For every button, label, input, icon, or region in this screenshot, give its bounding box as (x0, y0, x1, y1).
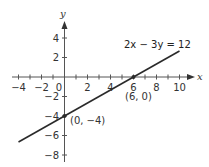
y-tick-label: −8 (44, 150, 59, 161)
x-axis: x −4 −2 0 2 4 6 8 10 (11, 71, 203, 93)
x-intercept-point (132, 75, 136, 79)
y-axis-arrow-icon (62, 21, 68, 29)
x-tick-label: 10 (173, 82, 186, 93)
y-axis-label: y (59, 8, 66, 19)
coordinate-plane: x −4 −2 0 2 4 6 8 10 y 4 2 −2 −4 −6 −8 2… (0, 0, 209, 167)
y-tick-label: −6 (44, 130, 59, 141)
x-tick-label: 2 (84, 82, 90, 93)
equation-label: 2x − 3y = 12 (124, 39, 191, 50)
x-axis-label: x (197, 71, 203, 82)
y-tick-label: 2 (53, 52, 59, 63)
x-axis-arrow-icon (187, 74, 195, 80)
y-intercept-label: (0, −4) (70, 115, 105, 126)
x-tick-label: 8 (153, 82, 159, 93)
x-tick-label: −4 (11, 82, 26, 93)
y-tick-label: −2 (44, 91, 59, 102)
x-intercept-label: (6, 0) (125, 91, 152, 102)
equation-line (19, 51, 180, 142)
y-tick-label: 4 (53, 33, 59, 44)
y-intercept-point (63, 114, 67, 118)
